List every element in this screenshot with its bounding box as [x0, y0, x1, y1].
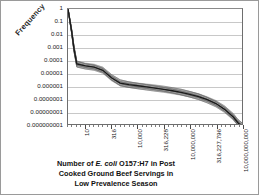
- x-tick-minor: [71, 125, 72, 127]
- x-tick-minor: [199, 125, 200, 127]
- x-tick-minor: [168, 125, 169, 127]
- y-tick-label: 0.0001: [44, 57, 63, 63]
- x-tick-minor: [239, 125, 240, 127]
- x-tick-minor: [107, 125, 108, 127]
- chart-title-line: Number of E. coli O157:H7 in Post: [31, 159, 201, 169]
- y-tick-label: 0.000000001: [27, 122, 63, 128]
- x-tick-minor: [98, 125, 99, 127]
- x-tick-minor: [234, 125, 235, 127]
- x-tick-label: 10,000,000,000: [242, 129, 248, 172]
- x-tick-minor: [146, 125, 147, 127]
- x-tick-minor: [230, 125, 231, 127]
- x-tick-label: 10: [84, 129, 90, 136]
- x-tick-minor: [181, 125, 182, 127]
- y-tick-label: 0.0000001: [34, 96, 63, 102]
- x-tick-minor: [115, 125, 116, 127]
- x-tick-label: 316,227,796: [216, 129, 222, 163]
- x-tick-minor: [142, 125, 143, 127]
- y-tick-label: 0.01: [51, 31, 63, 37]
- y-tick-label: 0.001: [48, 44, 63, 50]
- x-tick-minor: [102, 125, 103, 127]
- x-tick-minor: [155, 125, 156, 127]
- x-tick-minor: [221, 125, 222, 127]
- x-tick-minor: [203, 125, 204, 127]
- y-tick-label: 0.00001: [41, 70, 63, 76]
- x-tick-minor: [124, 125, 125, 127]
- series-curves: [68, 9, 242, 124]
- plot-area: [67, 8, 243, 125]
- x-tick-minor: [159, 125, 160, 127]
- x-tick-minor: [208, 125, 209, 127]
- x-tick-minor: [67, 125, 68, 127]
- x-tick-minor: [93, 125, 94, 127]
- y-tick-label: 0.000001: [37, 83, 63, 89]
- chart-title: Number of E. coli O157:H7 in PostCooked …: [31, 159, 201, 189]
- x-tick-minor: [225, 125, 226, 127]
- x-tick-minor: [173, 125, 174, 127]
- chart-title-line: Low Prevalence Season: [31, 179, 201, 189]
- x-tick-minor: [80, 125, 81, 127]
- x-tick-label: 316,228: [163, 129, 169, 151]
- x-tick-minor: [133, 125, 134, 127]
- y-tick-label: 0.00000001: [30, 109, 63, 115]
- x-tick-label: 10,000: [137, 129, 143, 148]
- x-tick-minor: [76, 125, 77, 127]
- chart-figure: Frequency 10.10.010.0010.00010.000010.00…: [0, 0, 259, 195]
- x-tick-minor: [177, 125, 178, 127]
- y-tick-label: 1: [60, 5, 63, 11]
- x-tick-minor: [120, 125, 121, 127]
- x-tick-minor: [129, 125, 130, 127]
- x-tick-label: 10,000,000: [190, 129, 196, 160]
- species-name: E. coli: [96, 159, 118, 168]
- chart-title-line: Cooked Ground Beef Servings in: [31, 169, 201, 179]
- y-axis-tick-labels: 10.10.010.0010.00010.000010.0000010.0000…: [7, 7, 65, 125]
- x-tick-minor: [195, 125, 196, 127]
- x-tick-minor: [212, 125, 213, 127]
- x-tick-minor: [151, 125, 152, 127]
- x-tick-label: 316: [110, 129, 116, 139]
- x-tick-minor: [89, 125, 90, 127]
- y-tick-label: 0.1: [54, 18, 63, 24]
- x-tick-minor: [186, 125, 187, 127]
